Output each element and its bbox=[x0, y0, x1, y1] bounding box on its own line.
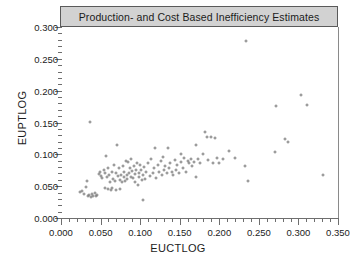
data-point bbox=[113, 180, 116, 183]
data-point bbox=[195, 176, 198, 179]
y-tick-minor bbox=[58, 52, 62, 53]
data-point bbox=[199, 161, 202, 164]
data-point bbox=[169, 162, 172, 165]
x-tick-major bbox=[140, 218, 141, 225]
data-point bbox=[130, 158, 133, 161]
x-tick-minor bbox=[330, 218, 331, 222]
data-point bbox=[96, 194, 99, 197]
data-point bbox=[127, 160, 130, 163]
x-tick-minor bbox=[203, 218, 204, 222]
x-tick-minor bbox=[85, 218, 86, 222]
data-point bbox=[82, 192, 85, 195]
data-point bbox=[158, 171, 161, 174]
data-point bbox=[113, 163, 116, 166]
y-tick-minor bbox=[58, 142, 62, 143]
x-tick-label: 0.350 bbox=[315, 227, 356, 238]
data-point bbox=[142, 198, 145, 201]
x-tick-minor bbox=[291, 218, 292, 222]
x-tick-minor bbox=[77, 218, 78, 222]
x-tick-minor bbox=[93, 218, 94, 222]
data-point bbox=[185, 170, 188, 173]
x-tick-minor bbox=[108, 218, 109, 222]
data-point bbox=[162, 155, 165, 158]
x-tick-minor bbox=[322, 218, 323, 222]
y-tick-minor bbox=[58, 40, 62, 41]
y-tick-label: 0.300 bbox=[12, 22, 58, 33]
y-tick-minor bbox=[58, 116, 62, 117]
data-point bbox=[119, 187, 122, 190]
x-tick-minor bbox=[124, 218, 125, 222]
data-point bbox=[161, 174, 164, 177]
data-point bbox=[153, 167, 156, 170]
data-point bbox=[139, 164, 142, 167]
y-tick-minor bbox=[58, 205, 62, 206]
x-tick-minor bbox=[164, 218, 165, 222]
y-tick-minor bbox=[58, 46, 62, 47]
data-point bbox=[117, 167, 120, 170]
chart-title-bar: Production- and Cost Based Inefficiency … bbox=[60, 6, 338, 27]
data-point bbox=[111, 187, 114, 190]
x-tick-minor bbox=[172, 218, 173, 222]
data-point bbox=[166, 171, 169, 174]
data-point bbox=[287, 140, 290, 143]
data-point bbox=[214, 137, 217, 140]
y-tick-label: 0.250 bbox=[12, 53, 58, 64]
y-tick-minor bbox=[58, 212, 62, 213]
data-point bbox=[183, 156, 186, 159]
y-axis-title: EUPTLOG bbox=[16, 73, 28, 163]
data-point bbox=[275, 104, 278, 107]
data-point bbox=[154, 146, 157, 149]
y-tick-minor bbox=[58, 199, 62, 200]
data-point bbox=[209, 135, 212, 138]
data-point bbox=[222, 158, 225, 161]
data-point bbox=[145, 170, 148, 173]
y-tick-minor bbox=[58, 129, 62, 130]
data-point bbox=[136, 183, 139, 186]
x-tick-major bbox=[259, 218, 260, 225]
y-tick-minor bbox=[58, 97, 62, 98]
data-point bbox=[115, 188, 118, 191]
x-tick-minor bbox=[251, 218, 252, 222]
data-point bbox=[306, 103, 309, 106]
data-point bbox=[273, 150, 276, 153]
data-point bbox=[245, 40, 248, 43]
y-tick-minor bbox=[58, 135, 62, 136]
y-tick-minor bbox=[58, 148, 62, 149]
data-point bbox=[116, 143, 119, 146]
data-point bbox=[180, 160, 183, 163]
data-point bbox=[154, 176, 157, 179]
data-point bbox=[215, 157, 218, 160]
data-point bbox=[104, 172, 107, 175]
x-tick-minor bbox=[116, 218, 117, 222]
chart-title: Production- and Cost Based Inefficiency … bbox=[79, 11, 320, 23]
data-point bbox=[189, 157, 192, 160]
data-point bbox=[107, 166, 110, 169]
data-point bbox=[109, 181, 112, 184]
data-point bbox=[188, 162, 191, 165]
data-point bbox=[132, 176, 135, 179]
plot-right-border bbox=[338, 27, 339, 219]
data-point bbox=[173, 159, 176, 162]
x-tick-minor bbox=[314, 218, 315, 222]
data-point bbox=[204, 131, 207, 134]
x-tick-minor bbox=[196, 218, 197, 222]
y-tick-minor bbox=[58, 103, 62, 104]
y-tick-label: 0.000 bbox=[12, 213, 58, 224]
x-tick-major bbox=[298, 218, 299, 225]
y-tick-minor bbox=[58, 161, 62, 162]
data-point bbox=[207, 159, 210, 162]
data-point bbox=[147, 161, 150, 164]
y-tick-minor bbox=[58, 78, 62, 79]
x-tick-minor bbox=[188, 218, 189, 222]
data-point bbox=[166, 146, 169, 149]
data-point bbox=[174, 168, 177, 171]
data-point bbox=[181, 167, 184, 170]
y-tick-minor bbox=[58, 84, 62, 85]
data-point bbox=[141, 173, 144, 176]
y-tick-minor bbox=[58, 72, 62, 73]
x-tick-minor bbox=[275, 218, 276, 222]
x-tick-major bbox=[180, 218, 181, 225]
data-point bbox=[108, 174, 111, 177]
data-point bbox=[321, 173, 324, 176]
data-point bbox=[148, 174, 151, 177]
